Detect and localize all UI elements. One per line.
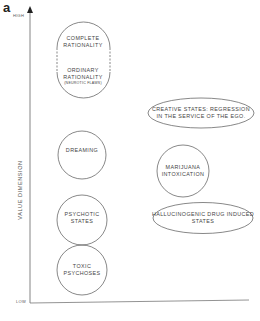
label-line: PSYCHOSES	[63, 270, 100, 277]
node-creative-states: CREATIVE STATES: REGRESSION IN THE SERVI…	[152, 106, 250, 120]
node-ordinary-rationality: ORDINARY RATIONALITY (NEUROTIC FLAWS)	[63, 67, 102, 86]
label-line: CREATIVE STATES: REGRESSION	[152, 106, 250, 113]
node-hallucinogenic: HALLUCINOGENIC DRUG INDUCED STATES	[152, 211, 254, 225]
label-line: RATIONALITY	[63, 74, 102, 81]
node-dreaming: DREAMING	[66, 147, 98, 154]
label-line: RATIONALITY	[63, 42, 102, 49]
label-line: STATES	[152, 218, 254, 225]
node-complete-rationality: COMPLETE RATIONALITY	[63, 35, 102, 49]
y-axis	[27, 6, 33, 303]
label-line: ORDINARY	[63, 67, 102, 74]
arrow-up-icon	[27, 6, 33, 13]
label-line: HALLUCINOGENIC DRUG INDUCED	[152, 211, 254, 218]
dreaming-circle	[58, 131, 106, 179]
rationality-capsule	[57, 22, 110, 98]
label-line: MARIJUANA	[162, 164, 205, 171]
x-axis	[30, 300, 249, 303]
label-line: INTOXICATION	[162, 171, 205, 178]
label-line: DREAMING	[66, 147, 98, 154]
label-line: PSYCHOTIC	[64, 211, 99, 218]
diagram-canvas	[0, 0, 260, 321]
label-line: TOXIC	[63, 263, 100, 270]
label-line: COMPLETE	[63, 35, 102, 42]
label-note: (NEUROTIC FLAWS)	[63, 81, 102, 86]
node-psychotic: PSYCHOTIC STATES	[64, 211, 99, 225]
label-line: IN THE SERVICE OF THE EGO.	[152, 113, 250, 120]
node-toxic: TOXIC PSYCHOSES	[63, 263, 100, 277]
node-marijuana: MARIJUANA INTOXICATION	[162, 164, 205, 178]
label-line: STATES	[64, 218, 99, 225]
